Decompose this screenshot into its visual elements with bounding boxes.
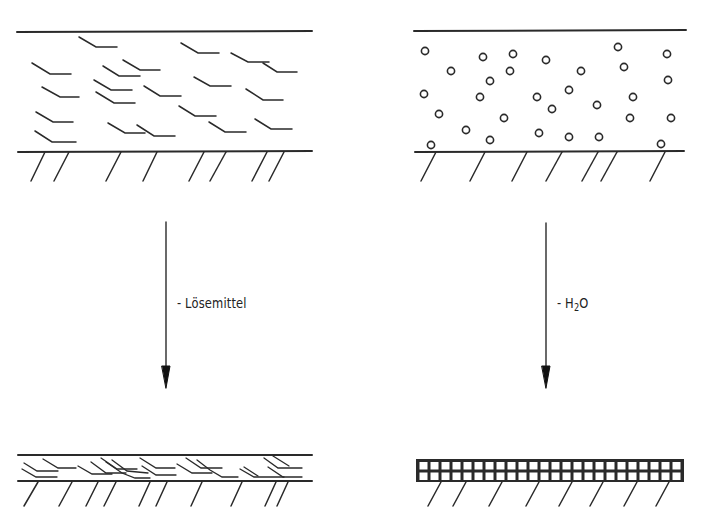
substrate-hatching — [421, 152, 665, 181]
label-prefix: - H — [557, 295, 574, 311]
flake-particles — [32, 37, 297, 142]
spherical-particles — [420, 43, 674, 148]
left-down-arrow-icon — [162, 222, 170, 388]
right-top-coating — [414, 30, 686, 181]
left-arrow-label: - Lösemittel — [177, 295, 247, 311]
label-suffix: O — [579, 295, 588, 311]
right-bottom-grid-film — [416, 459, 684, 506]
diagram-canvas — [0, 0, 703, 528]
substrate-hatching — [428, 482, 669, 506]
right-down-arrow-icon — [542, 223, 550, 388]
substrate-hatching — [24, 482, 288, 506]
substrate-hatching — [31, 152, 284, 181]
left-bottom-film — [18, 455, 312, 506]
left-top-coating — [17, 31, 312, 181]
right-arrow-label: - H2O — [557, 295, 589, 313]
